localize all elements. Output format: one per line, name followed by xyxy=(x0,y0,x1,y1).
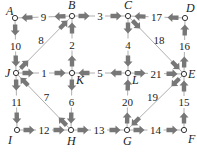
node-circle xyxy=(181,71,186,76)
edge-label: 20 xyxy=(122,96,134,108)
edge-label: 13 xyxy=(94,124,106,136)
arrow-icon xyxy=(123,113,132,124)
node-circle xyxy=(14,127,19,132)
arrow-icon xyxy=(180,113,189,124)
arrow-icon xyxy=(67,80,76,91)
node-circle xyxy=(182,15,187,20)
arrow-icon xyxy=(68,56,77,67)
edge-label: 9 xyxy=(41,11,47,23)
edge-label: 4 xyxy=(125,39,131,51)
arrow-icon xyxy=(167,69,178,78)
edge-18: 18 xyxy=(128,16,184,74)
edge-label: 5 xyxy=(97,67,103,79)
node-H: H xyxy=(66,127,77,148)
arrow-icon xyxy=(134,126,145,135)
edge-8: 8 xyxy=(16,16,72,73)
arrow-icon xyxy=(110,126,121,135)
node-label: L xyxy=(131,73,139,87)
node-label: A xyxy=(5,4,14,18)
node-G: G xyxy=(123,127,132,148)
edge-label: 14 xyxy=(150,124,162,136)
node-label: K xyxy=(75,73,85,87)
edge-14: 14 xyxy=(127,124,184,136)
arrow-icon xyxy=(180,81,189,92)
edge-label: 16 xyxy=(179,40,191,52)
node-label: E xyxy=(187,67,196,81)
edge-4: 4 xyxy=(123,16,133,73)
arrow-icon xyxy=(124,56,133,67)
arrow-icon xyxy=(111,12,122,21)
node-circle xyxy=(125,13,130,18)
node-label: F xyxy=(187,132,196,146)
arrow-icon xyxy=(180,25,189,36)
arrow-icon xyxy=(123,80,132,91)
arrow-icon xyxy=(24,126,35,135)
node-label: C xyxy=(124,0,133,12)
edge-17: 17 xyxy=(128,11,185,23)
edge-label: 6 xyxy=(69,96,75,108)
node-I: I xyxy=(7,127,20,147)
arrow-icon xyxy=(12,113,21,124)
edge-label: 10 xyxy=(10,40,22,52)
node-label: B xyxy=(68,0,76,12)
edge-3: 3 xyxy=(72,10,128,22)
arrow-icon xyxy=(11,25,20,36)
node-circle xyxy=(181,127,186,132)
edge-2: 2 xyxy=(67,16,77,73)
arrow-icon xyxy=(168,13,179,22)
edge-1: 1 xyxy=(16,67,72,79)
arrow-icon xyxy=(22,13,33,22)
node-circle xyxy=(13,70,18,75)
arrow-icon xyxy=(180,57,189,68)
node-J: J xyxy=(5,66,19,80)
arrow-icon xyxy=(55,69,66,78)
edge-12: 12 xyxy=(17,124,71,136)
edge-label: 3 xyxy=(97,10,103,22)
edge-label: 17 xyxy=(151,11,163,23)
edge-label: 18 xyxy=(154,34,166,46)
arrow-icon xyxy=(67,113,76,124)
node-circle xyxy=(69,70,74,75)
arrow-icon xyxy=(54,126,65,135)
arrow-icon xyxy=(79,12,90,21)
edge-label: 15 xyxy=(179,96,191,108)
arrow-icon xyxy=(135,12,146,21)
node-label: H xyxy=(66,134,77,148)
node-D: D xyxy=(182,1,195,21)
edge-label: 19 xyxy=(147,91,159,103)
node-label: I xyxy=(7,133,13,147)
node-E: E xyxy=(181,67,196,81)
node-B: B xyxy=(68,0,76,19)
node-circle xyxy=(68,127,73,132)
node-circle xyxy=(124,127,129,132)
node-circle xyxy=(69,13,74,18)
directed-graph: 931710824181615211176201915121314 ABCDJK… xyxy=(0,0,197,152)
edge-13: 13 xyxy=(71,124,127,136)
node-circle xyxy=(125,70,130,75)
edge-6: 6 xyxy=(67,73,77,130)
node-label: J xyxy=(5,66,11,80)
edge-label: 1 xyxy=(41,67,47,79)
arrow-icon xyxy=(55,12,66,21)
edges: 931710824181615211176201915121314 xyxy=(8,10,193,136)
arrow-icon xyxy=(23,69,34,78)
edge-label: 8 xyxy=(38,34,44,46)
node-F: F xyxy=(181,127,196,146)
node-A: A xyxy=(5,4,18,21)
arrow-icon xyxy=(78,126,89,135)
node-label: D xyxy=(185,1,195,15)
edge-label: 7 xyxy=(44,91,50,103)
edge-label: 11 xyxy=(11,96,22,108)
arrow-icon xyxy=(111,69,122,78)
arrow-icon xyxy=(11,56,20,67)
arrow-icon xyxy=(68,23,77,34)
edge-label: 2 xyxy=(69,39,75,51)
arrow-icon xyxy=(124,23,133,34)
node-label: G xyxy=(123,134,132,148)
edge-label: 21 xyxy=(151,68,162,80)
arrow-icon xyxy=(12,80,21,91)
arrow-icon xyxy=(167,126,178,135)
edge-label: 12 xyxy=(39,124,50,136)
